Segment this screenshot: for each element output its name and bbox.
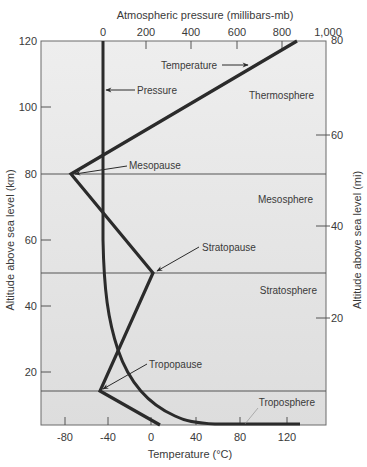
mesopause-annotation: Mesopause	[129, 160, 181, 171]
bottom-axis-title: Temperature (°C)	[148, 448, 232, 460]
right-axis-title: Altitude above sea level (mi)	[351, 171, 363, 309]
left-axis-title: Altitude above sea level (km)	[4, 169, 16, 310]
svg-text:60: 60	[25, 234, 37, 246]
svg-text:80: 80	[234, 431, 246, 443]
right-tick-labels: 80 60 40 20	[331, 34, 343, 324]
svg-text:200: 200	[137, 26, 155, 38]
svg-text:80: 80	[25, 168, 37, 180]
atmosphere-chart: Atmospheric pressure (millibars-mb) Temp…	[0, 0, 367, 467]
svg-text:20: 20	[25, 366, 37, 378]
bottom-tick-labels: -80 -40 0 40 80 120	[57, 431, 296, 443]
troposphere-label: Troposphere	[259, 397, 316, 408]
svg-text:80: 80	[331, 34, 343, 46]
svg-text:40: 40	[331, 220, 343, 232]
stratopause-annotation: Stratopause	[202, 242, 256, 253]
pressure-annotation: Pressure	[137, 85, 177, 96]
mesosphere-label: Mesosphere	[258, 194, 313, 205]
svg-text:40: 40	[190, 431, 202, 443]
svg-text:400: 400	[182, 26, 200, 38]
svg-text:40: 40	[25, 300, 37, 312]
svg-text:800: 800	[273, 26, 291, 38]
svg-text:20: 20	[331, 312, 343, 324]
svg-text:0: 0	[100, 26, 106, 38]
svg-text:600: 600	[228, 26, 246, 38]
left-tick-labels: 120 100 80 60 40 20	[19, 35, 37, 378]
svg-text:120: 120	[278, 431, 296, 443]
svg-text:-80: -80	[57, 431, 73, 443]
svg-text:0: 0	[148, 431, 154, 443]
stratosphere-label: Stratosphere	[260, 285, 318, 296]
temperature-annotation: Temperature	[161, 60, 218, 71]
tropopause-annotation: Tropopause	[149, 359, 202, 370]
svg-text:-40: -40	[100, 431, 116, 443]
svg-text:120: 120	[19, 35, 37, 47]
svg-text:100: 100	[19, 101, 37, 113]
svg-text:60: 60	[331, 129, 343, 141]
top-axis-title: Atmospheric pressure (millibars-mb)	[117, 9, 294, 21]
thermosphere-label: Thermosphere	[249, 90, 314, 101]
top-tick-labels: 0 200 400 600 800 1,000	[100, 26, 342, 38]
